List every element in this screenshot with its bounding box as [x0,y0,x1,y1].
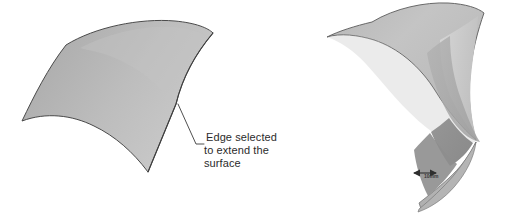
callout-line-3: surface [204,157,241,169]
callout-line-1: Edge selected [206,131,277,143]
extended-surface-figure: 10mm [327,3,484,212]
callout-leader-line[interactable] [178,104,204,144]
dimension-value-label: 10mm [424,173,439,179]
illustration-canvas: Edge selected to extend the surface 10mm [0,0,508,214]
original-surface-figure: Edge selected to extend the surface [22,20,277,172]
callout-line-2: to extend the [204,144,269,156]
dimension-arrow-left [413,170,420,177]
